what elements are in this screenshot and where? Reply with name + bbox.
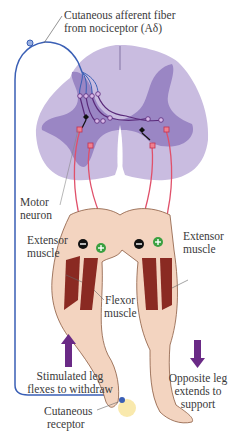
extensor-right-label-line1: Extensor <box>183 230 224 242</box>
stimulated-label-line2: flexes to withdraw <box>24 383 116 395</box>
extensor-left-label-line1: Extensor <box>27 234 68 246</box>
afferent-label-line2: from nociceptor (Aδ) <box>64 22 162 34</box>
opposite-label-line2: extends to <box>166 385 230 397</box>
arrow-down-icon <box>190 340 205 368</box>
extensor-left-label-line2: muscle <box>27 247 60 259</box>
inhibit-badge-right <box>134 239 144 249</box>
spinal-cord <box>36 45 208 180</box>
inhibit-badge-left <box>78 239 88 249</box>
opposite-label-line1: Opposite leg <box>166 372 230 384</box>
motor-neuron-label-line1: Motor <box>20 196 49 208</box>
excite-badge-right <box>153 237 163 247</box>
motor-neuron-label-line2: neuron <box>20 209 52 221</box>
receptor-label-line1: Cutaneous <box>44 405 93 417</box>
stimulated-label-line1: Stimulated leg <box>24 370 116 382</box>
cutaneous-receptor <box>118 397 136 417</box>
extensor-right-label-line2: muscle <box>183 243 216 255</box>
excite-badge-left <box>96 243 106 253</box>
afferent-label-line1: Cutaneous afferent fiber <box>64 9 176 21</box>
flexor-label-line1: Flexor <box>105 294 135 306</box>
opposite-label-line3: support <box>166 398 230 410</box>
flexor-label-line2: muscle <box>104 307 137 319</box>
receptor-label-line2: receptor <box>47 418 85 430</box>
